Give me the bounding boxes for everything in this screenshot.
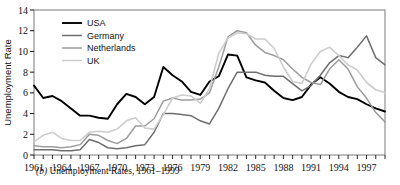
y-axis-tick-label: 6: [23, 87, 28, 98]
y-axis-title: Unemployment Rate: [2, 39, 13, 126]
y-axis-tick-label: 8: [23, 67, 28, 78]
figure-caption: (b) Unemployment Rates, 1961–1999: [36, 166, 180, 176]
y-axis-tick-label: 0: [23, 150, 28, 161]
legend-label-uk: UK: [87, 56, 100, 66]
y-axis-tick-label: 4: [23, 108, 28, 119]
unemployment-rate-line-chart: 0246810121419611964196719701973197619791…: [0, 0, 400, 185]
x-axis-tick-label: 1988: [273, 162, 293, 173]
x-axis-tick-label: 1982: [218, 162, 238, 173]
legend-label-germany: Germany: [87, 31, 125, 41]
x-axis-tick-label: 1997: [357, 162, 377, 173]
y-axis-tick-label: 2: [23, 129, 28, 140]
legend-label-usa: USA: [87, 18, 106, 28]
figure-container: 0246810121419611964196719701973197619791…: [0, 0, 400, 185]
x-axis-tick-label: 1985: [246, 162, 266, 173]
x-axis-tick-label: 1979: [190, 162, 210, 173]
caption-label: Unemployment Rates, 1961–1999: [49, 166, 179, 176]
caption-letter: (b): [36, 166, 47, 176]
legend-label-netherlands: Netherlands: [87, 43, 136, 53]
x-axis-tick-label: 1994: [329, 162, 349, 173]
y-axis-tick-label: 12: [18, 25, 28, 36]
y-axis-tick-label: 14: [18, 5, 28, 16]
x-axis-tick-label: 1991: [301, 162, 321, 173]
y-axis-tick-label: 10: [18, 46, 28, 57]
